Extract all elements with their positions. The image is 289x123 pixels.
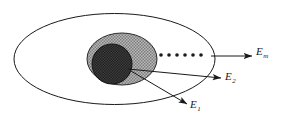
label-e2-base: E: [225, 70, 232, 82]
label-em-base: E: [256, 45, 263, 57]
ellipsis-dot: [167, 53, 171, 57]
label-e1-subscript: 1: [197, 105, 201, 113]
label-e2: E2: [225, 71, 235, 82]
ellipsis-dot: [159, 53, 163, 57]
label-e2-subscript: 2: [232, 77, 236, 85]
label-em: Em: [256, 46, 268, 57]
ellipsis-dot: [191, 53, 195, 57]
label-em-subscript: m: [263, 52, 268, 60]
ellipsis-dot: [183, 53, 187, 57]
ellipsis-dot: [199, 53, 203, 57]
ellipsis-dot: [175, 53, 179, 57]
label-e1: E1: [190, 99, 200, 110]
figure-canvas: Em E2 E1: [0, 0, 289, 123]
inner-dotted-circle: [92, 44, 132, 84]
diagram-svg: [0, 0, 289, 123]
label-e1-base: E: [190, 98, 197, 110]
